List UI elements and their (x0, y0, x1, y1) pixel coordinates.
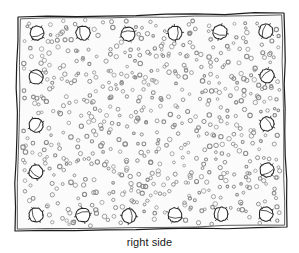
figure-container: right side (0, 0, 299, 253)
fastener-circle (214, 207, 228, 222)
fastener-tick (81, 206, 82, 208)
panel-illustration (0, 0, 299, 253)
fastener-tick (89, 213, 91, 214)
fastener-tick (218, 38, 219, 40)
panel-outline-group (15, 13, 287, 231)
panel-outer-border (15, 13, 287, 231)
fastener-ring (121, 27, 135, 41)
fastener-circle (260, 163, 274, 178)
fastener-tick (74, 216, 76, 217)
fastener-circle (29, 70, 43, 84)
fastener-tick (226, 34, 228, 35)
fastener-ring (76, 26, 91, 40)
fastener-ring (213, 25, 227, 40)
fastener-ring (168, 208, 182, 223)
fastener-tick (222, 23, 223, 25)
fastener-ring (29, 208, 43, 222)
fastener-ring (214, 207, 228, 222)
fastener-ring (168, 26, 182, 40)
fastener-ring (260, 69, 274, 83)
fastener-circle (76, 26, 91, 40)
figure-caption: right side (0, 236, 299, 249)
fastener-ring (30, 26, 44, 41)
fastener-tick (211, 30, 213, 31)
fastener-ring (76, 208, 91, 222)
fastener-tick (84, 221, 85, 223)
fastener-circle (29, 25, 44, 40)
fastener-ring (259, 24, 273, 38)
